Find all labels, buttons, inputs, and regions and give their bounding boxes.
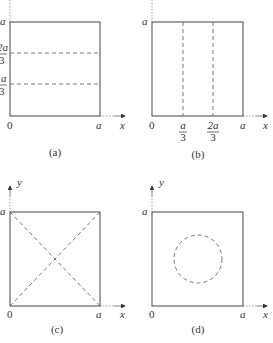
origin-label: 0 [7,119,13,131]
y-tick-a3-num: a [1,72,7,84]
y-tick-2a3-den: 3 [0,54,5,66]
x-end-label: a [96,119,102,131]
square-region [152,22,243,116]
dashed-circle [174,235,222,283]
y-axis-label: y [16,176,22,188]
y-tick-a3-den: 3 [0,85,5,97]
panel-a: a 2a 3 a 3 0 a x (a) [0,0,125,159]
panel-caption: (d) [192,323,205,336]
y-end-label: a [142,205,148,217]
y-end-label: a [0,15,6,27]
y-tick-2a3-num: 2a [0,41,9,53]
figure-canvas: a 2a 3 a 3 0 a x (a) a 0 a 3 2a 3 a x (b… [0,0,273,343]
origin-label: 0 [7,308,13,320]
y-end-label: a [0,205,6,217]
x-axis-label: x [119,308,125,320]
x-axis-label: x [262,119,268,131]
x-end-label: a [96,308,102,320]
panel-caption: (a) [49,146,62,159]
y-axis-label: y [158,176,164,188]
panel-d: y a 0 a x (d) [142,176,268,336]
x-axis-label: x [119,119,125,131]
panel-caption: (b) [192,148,205,161]
panel-b: a 0 a 3 2a 3 a x (b) [142,0,268,161]
x-end-label: a [240,308,246,320]
square-region [152,212,243,306]
x-end-label: a [240,119,246,131]
panel-c: y a 0 a x (c) [0,176,125,336]
origin-label: 0 [149,308,155,320]
square-region [10,22,100,116]
x-axis-label: x [262,308,268,320]
dashed-diagonal [10,212,100,306]
x-tick-a3-den: 3 [180,131,186,143]
panel-caption: (c) [51,323,64,336]
origin-label: 0 [149,119,155,131]
x-tick-2a3-num: 2a [208,119,220,131]
x-tick-a3-num: a [180,119,186,131]
y-end-label: a [142,15,148,27]
x-tick-2a3-den: 3 [210,131,216,143]
